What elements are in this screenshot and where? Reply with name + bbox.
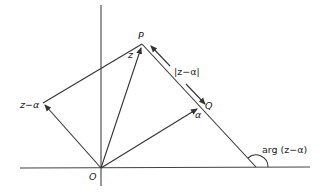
real-axis — [20, 167, 310, 168]
line-PQ-extended — [142, 44, 256, 167]
label-z: z — [127, 49, 134, 60]
label-modulus: |z−α| — [174, 66, 200, 77]
label-Q: Q — [205, 100, 213, 111]
vector-alpha — [101, 109, 197, 168]
vector-z-minus-alpha — [45, 105, 101, 168]
label-P: P — [138, 30, 144, 41]
label-alpha: α — [195, 109, 202, 120]
label-O: O — [89, 171, 97, 182]
label-argument: arg (z−α) — [262, 144, 307, 155]
label-z-minus-alpha: z−α — [19, 99, 40, 110]
argand-diagram: P z |z−α| Q α z−α arg (z−α) O — [0, 0, 328, 194]
vector-z — [101, 48, 141, 168]
